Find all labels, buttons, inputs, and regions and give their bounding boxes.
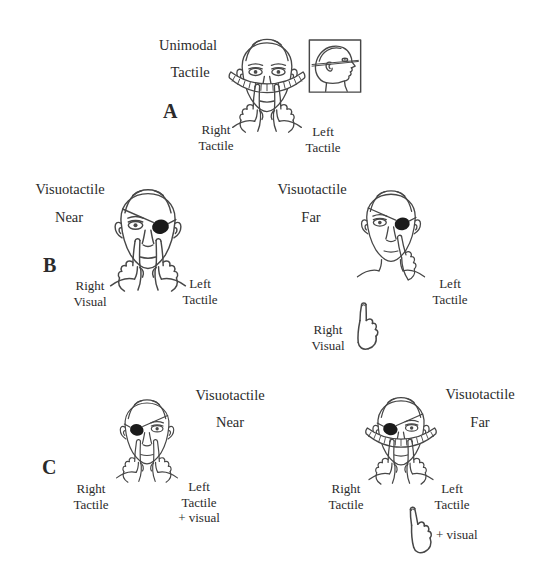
panel-b-far-far-stim-line2: Visual — [311, 338, 344, 354]
panel-b-near-distance: Near — [55, 209, 83, 226]
panel-b-far-right-stimulus-label: Left Tactile — [432, 276, 467, 307]
panel-c-far-left-stimulus-label: Right Tactile — [328, 481, 363, 512]
panel-b-near-right-stim-line2: Tactile — [182, 292, 217, 308]
panel-c-near-title: Visuotactile — [195, 387, 264, 404]
panel-c-far-right-stim-line2: Tactile — [434, 497, 469, 513]
panel-b-near-title: Visuotactile — [35, 181, 104, 198]
panel-b-far-distance: Far — [301, 209, 320, 226]
head-front-eyepatch-right-one-hand-illustration — [348, 172, 434, 287]
panel-b-far-far-stimulus-label: Right Visual — [311, 322, 344, 353]
panel-a-right-stim-line2: Tactile — [305, 140, 340, 156]
panel-c-far-title: Visuotactile — [445, 386, 514, 403]
panel-c-near-distance: Near — [216, 414, 244, 431]
panel-c-near-left-stim-line1: Right — [73, 481, 108, 497]
panel-a-right-stim-line1: Left — [305, 124, 340, 140]
panel-c-far-left-stim-line2: Tactile — [328, 497, 363, 513]
panel-a-condition-line2: Tactile — [170, 64, 209, 81]
head-front-eyepatch-left-band-two-hands-illustration — [360, 379, 442, 490]
panel-a-left-stimulus-label: Right Tactile — [198, 122, 233, 153]
pointing-hand-plus-visual-illustration — [397, 503, 436, 558]
head-profile-inset-illustration — [308, 38, 362, 95]
panel-c-far-right-stim-line1: Left — [434, 481, 469, 497]
panel-c-letter: C — [42, 456, 56, 479]
panel-b-far-right-stim-line2: Tactile — [432, 292, 467, 308]
panel-c-near-left-stim-line2: Tactile — [73, 497, 108, 513]
panel-c-near-right-stim-line1: Left — [178, 479, 220, 495]
panel-b-near-left-stimulus-label: Right Visual — [73, 278, 106, 309]
panel-b-letter: B — [43, 254, 56, 277]
panel-a-letter: A — [163, 100, 177, 123]
panel-c-far-right-stimulus-label: Left Tactile — [434, 481, 469, 512]
panel-b-near-left-stim-line1: Right — [73, 278, 106, 294]
panel-b-far-title: Visuotactile — [277, 181, 346, 198]
panel-a-left-stim-line1: Right — [198, 122, 233, 138]
figure-page: Unimodal Tactile A Right Tactile Left Ta… — [0, 0, 535, 566]
panel-c-near-left-stimulus-label: Right Tactile — [73, 481, 108, 512]
panel-b-near-right-stim-line1: Left — [182, 276, 217, 292]
head-front-eyepatch-left-two-hands-illustration — [108, 383, 186, 487]
panel-c-near-right-stim-line3: + visual — [178, 510, 220, 526]
panel-b-near-left-stim-line2: Visual — [73, 294, 106, 310]
panel-c-near-right-stim-line2: Tactile — [178, 495, 220, 511]
panel-c-far-distance: Far — [470, 414, 489, 431]
panel-c-near-right-stimulus-label: Left Tactile + visual — [178, 479, 220, 526]
panel-c-far-far-stimulus-label: + visual — [436, 527, 478, 543]
panel-b-far-far-stim-line1: Right — [311, 322, 344, 338]
pointing-hand-far-visual-illustration — [349, 301, 379, 351]
head-front-tactile-band-illustration — [223, 17, 311, 141]
panel-c-far-left-stim-line1: Right — [328, 481, 363, 497]
panel-a-right-stimulus-label: Left Tactile — [305, 124, 340, 155]
panel-b-near-right-stimulus-label: Left Tactile — [182, 276, 217, 307]
panel-b-far-right-stim-line1: Left — [432, 276, 467, 292]
panel-a-condition-line1: Unimodal — [159, 37, 217, 54]
panel-a-left-stim-line2: Tactile — [198, 138, 233, 154]
